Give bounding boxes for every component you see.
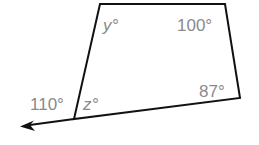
angle-label-z: z°: [82, 95, 99, 114]
angle-label-top-right: 100°: [177, 16, 212, 35]
arrowhead-icon: [20, 121, 35, 132]
angle-label-exterior: 110°: [30, 95, 64, 114]
quadrilateral: [74, 4, 240, 119]
angle-label-bottom-right: 87°: [199, 82, 225, 101]
angle-label-y: y°: [102, 16, 119, 35]
quadrilateral-diagram: y° 100° 87° 110° z°: [0, 0, 259, 145]
extension-ray: [26, 119, 74, 126]
